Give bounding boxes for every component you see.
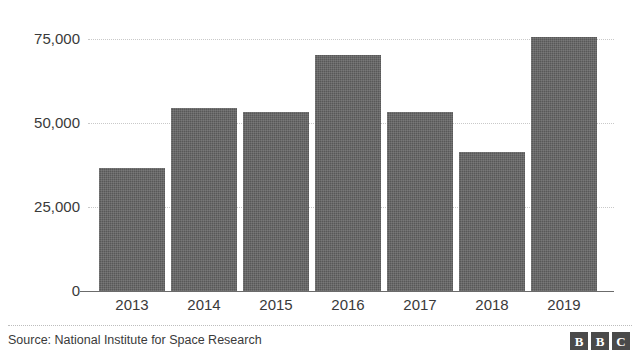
bar-2019[interactable] — [531, 37, 597, 291]
bar-2014[interactable] — [171, 108, 237, 291]
bar-2017[interactable] — [387, 112, 453, 291]
footer-divider — [8, 325, 632, 327]
bbc-logo-letter-1: B — [570, 332, 588, 350]
x-axis-line — [80, 291, 614, 292]
xtick-label-2017: 2017 — [387, 296, 453, 313]
bar-slot-2013 — [99, 0, 165, 291]
bar-slot-2016 — [315, 0, 381, 291]
bar-2015[interactable] — [243, 112, 309, 291]
xtick-label-2015: 2015 — [243, 296, 309, 313]
bar-series: 2013 2014 2015 2016 2017 2018 2019 — [99, 0, 599, 291]
xtick-label-2019: 2019 — [531, 296, 597, 313]
plot-area: 75,000 50,000 25,000 0 — [0, 0, 640, 300]
bar-slot-2018 — [459, 0, 525, 291]
xtick-label-2013: 2013 — [99, 296, 165, 313]
xtick-label-2016: 2016 — [315, 296, 381, 313]
ytick-label-25000: 25,000 — [8, 199, 80, 214]
bar-slot-2015 — [243, 0, 309, 291]
bbc-logo-letter-2: B — [591, 332, 609, 350]
bar-slot-2014 — [171, 0, 237, 291]
bar-2018[interactable] — [459, 152, 525, 291]
bar-slot-2017 — [387, 0, 453, 291]
bbc-logo: B B C — [570, 332, 630, 350]
bbc-logo-letter-3: C — [612, 332, 630, 350]
bar-2016[interactable] — [315, 55, 381, 291]
source-note: Source: National Institute for Space Res… — [8, 333, 262, 347]
bar-slot-2019 — [531, 0, 597, 291]
ytick-label-50000: 50,000 — [8, 115, 80, 130]
chart-screenshot: 75,000 50,000 25,000 0 — [0, 0, 640, 363]
bar-2013[interactable] — [99, 168, 165, 291]
xtick-label-2018: 2018 — [459, 296, 525, 313]
xtick-label-2014: 2014 — [171, 296, 237, 313]
ytick-label-0: 0 — [8, 283, 80, 298]
ytick-label-75000: 75,000 — [8, 31, 80, 46]
